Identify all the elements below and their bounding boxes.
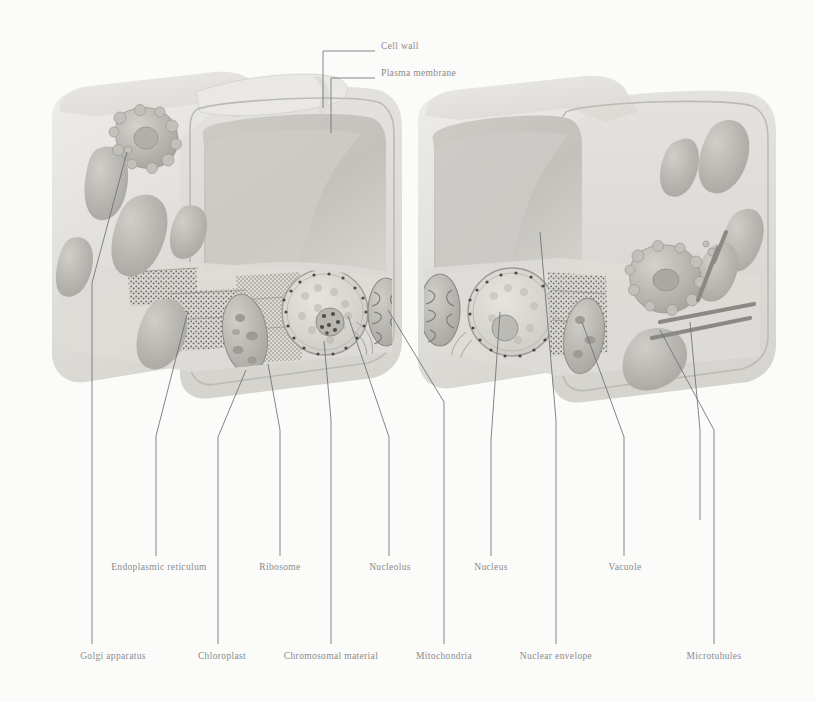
label-chloroplast: Chloroplast: [198, 651, 246, 661]
label-nucleus: Nucleus: [474, 562, 508, 572]
nucleolus-right: [492, 315, 518, 341]
cell-diagram-artwork: [0, 0, 815, 702]
leader-chloroplast: [218, 370, 246, 644]
label-ribosome: Ribosome: [259, 562, 300, 572]
right-plant-cell: [418, 76, 776, 403]
nucleolus-left: [316, 308, 344, 336]
label-golgi-apparatus: Golgi apparatus: [80, 651, 146, 661]
label-plasma-membrane: Plasma membrane: [381, 68, 456, 78]
label-chromosomal-material: Chromosomal material: [284, 651, 378, 661]
label-endoplasmic-reticulum: Endoplasmic reticulum: [111, 562, 207, 572]
label-cell-wall: Cell wall: [381, 41, 419, 51]
label-microtubules: Microtubules: [687, 651, 742, 661]
leader-chromosomal-material: [324, 341, 331, 644]
label-nuclear-envelope: Nuclear envelope: [520, 651, 592, 661]
mitochondrion-right: [420, 274, 460, 346]
leader-ribosome: [268, 364, 280, 556]
illustration-canvas: Cell wall Plasma membrane Golgi apparatu…: [0, 0, 815, 702]
label-vacuole: Vacuole: [608, 562, 641, 572]
label-nucleolus: Nucleolus: [369, 562, 411, 572]
label-mitochondria: Mitochondria: [416, 651, 472, 661]
